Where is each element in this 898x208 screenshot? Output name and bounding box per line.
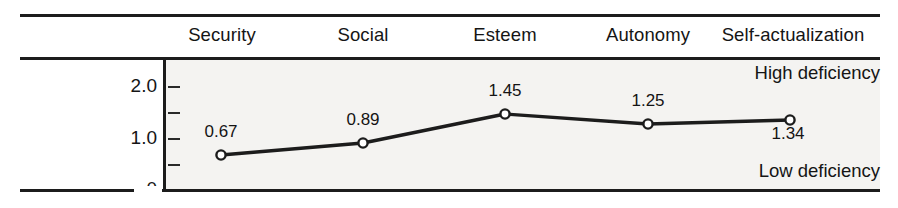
annotation-low-deficiency: Low deficiency (759, 160, 880, 182)
data-point-marker-2 (500, 109, 509, 118)
point-label-self-actualization: 1.34 (748, 124, 828, 143)
series-markers (216, 109, 794, 159)
data-point-marker-3 (643, 119, 652, 128)
point-label-esteem: 1.45 (465, 81, 545, 100)
annotation-high-deficiency: High deficiency (755, 62, 880, 84)
need-deficiency-figure: Security Social Esteem Autonomy Self-act… (0, 0, 898, 208)
point-label-autonomy: 1.25 (608, 91, 688, 110)
point-label-security: 0.67 (181, 122, 261, 141)
series-polyline (221, 114, 790, 155)
data-point-marker-1 (358, 138, 367, 147)
point-label-social: 0.89 (323, 110, 403, 129)
data-point-marker-0 (216, 150, 225, 159)
